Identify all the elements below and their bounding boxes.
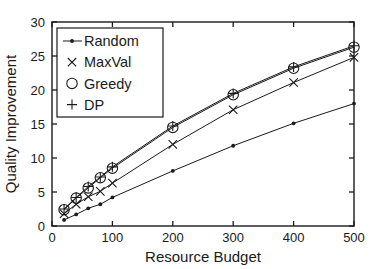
- x-tick-label: 0: [48, 230, 55, 245]
- legend-random-marker: [70, 39, 74, 43]
- x-tick-labels: 0100200300400500: [48, 230, 364, 245]
- maxval-marker: [289, 78, 297, 86]
- random-marker: [292, 121, 296, 125]
- random-marker: [352, 102, 356, 106]
- legend-label-random: Random: [84, 33, 139, 49]
- chart-figure: 0100200300400500 051015202530 RandomMaxV…: [0, 0, 377, 269]
- random-marker: [111, 196, 115, 200]
- random-marker: [86, 206, 90, 210]
- y-tick-label: 30: [31, 15, 45, 30]
- y-tick-label: 15: [31, 117, 45, 132]
- maxval-marker: [96, 187, 104, 195]
- dp-marker: [289, 62, 299, 72]
- dp-marker: [349, 41, 359, 51]
- maxval-marker: [169, 140, 177, 148]
- random-marker: [171, 169, 175, 173]
- legend-label-dp: DP: [84, 97, 104, 113]
- y-tick-label: 25: [31, 49, 45, 64]
- y-tick-label: 5: [38, 185, 45, 200]
- x-tick-label: 200: [162, 230, 184, 245]
- plot-canvas: 0100200300400500 051015202530 RandomMaxV…: [0, 0, 377, 269]
- random-marker: [231, 144, 235, 148]
- maxval-marker: [229, 106, 237, 114]
- legend-label-maxval: MaxVal: [84, 54, 131, 70]
- x-tick-label: 100: [102, 230, 124, 245]
- y-axis-label: Quality Improvement: [2, 54, 19, 193]
- y-tick-labels: 051015202530: [31, 15, 45, 234]
- y-tick-label: 10: [31, 151, 45, 166]
- chart-legend: RandomMaxValGreedyDP: [57, 28, 163, 117]
- series-line-random: [64, 104, 354, 220]
- legend-label-greedy: Greedy: [84, 76, 132, 92]
- y-tick-label: 0: [38, 219, 45, 234]
- x-tick-label: 500: [343, 230, 365, 245]
- random-marker: [74, 213, 78, 217]
- x-axis-label: Resource Budget: [145, 248, 262, 265]
- x-tick-label: 300: [222, 230, 244, 245]
- random-marker: [62, 218, 66, 222]
- random-marker: [98, 202, 102, 206]
- maxval-marker: [84, 193, 92, 201]
- y-tick-label: 20: [31, 83, 45, 98]
- series-random: [62, 102, 356, 222]
- x-tick-label: 400: [283, 230, 305, 245]
- maxval-marker: [108, 179, 116, 187]
